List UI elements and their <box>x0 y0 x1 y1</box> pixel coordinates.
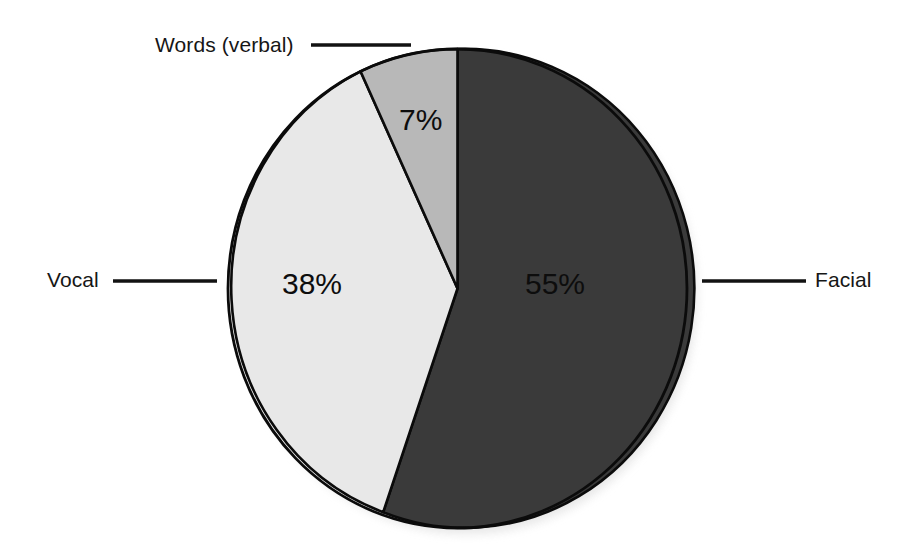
pie-chart-figure: Words (verbal) Vocal Facial 7% 38% 55% <box>0 0 918 544</box>
slice-value-words: 7% <box>399 105 442 135</box>
slice-label-vocal: Vocal <box>47 269 99 290</box>
slice-value-facial: 55% <box>525 269 585 299</box>
pie-chart-canvas <box>0 0 918 544</box>
slice-label-facial: Facial <box>815 269 872 290</box>
slice-value-vocal: 38% <box>282 269 342 299</box>
slice-label-words: Words (verbal) <box>155 34 294 55</box>
